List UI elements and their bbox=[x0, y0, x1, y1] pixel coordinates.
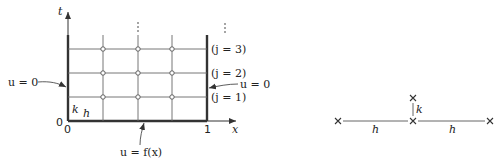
stencil-right-h-label: h bbox=[449, 123, 456, 136]
continuation-dots-center bbox=[137, 22, 139, 32]
stencil-node-right bbox=[487, 118, 493, 124]
step-k-label: k bbox=[72, 103, 79, 116]
stencil-node-left bbox=[335, 118, 341, 124]
step-h-label: h bbox=[83, 107, 90, 120]
stencil-k-label: k bbox=[416, 103, 423, 116]
stencil-node-center bbox=[410, 118, 416, 124]
right-bc-label: u = 0 bbox=[240, 78, 270, 91]
x-end-tick-label: 1 bbox=[204, 123, 211, 136]
stencil-node-top bbox=[410, 95, 416, 101]
initial-condition-arrow bbox=[140, 123, 144, 145]
row-label-j3: (j = 3) bbox=[211, 43, 246, 56]
initial-condition-label: u = f(x) bbox=[120, 146, 162, 159]
stencil bbox=[335, 95, 493, 124]
stencil-nodes bbox=[335, 95, 493, 124]
t-axis-label: t bbox=[58, 5, 63, 18]
left-bc-arrow bbox=[38, 82, 66, 87]
continuation-dots-right bbox=[224, 23, 226, 33]
finite-difference-figure: t x 0 0 1 k h (j = 3) (j = 2) (j = 1) u … bbox=[0, 0, 503, 160]
origin-x-label: 0 bbox=[64, 123, 71, 136]
origin-t-label: 0 bbox=[56, 116, 63, 129]
right-bc-arrow bbox=[209, 84, 238, 88]
stencil-left-h-label: h bbox=[372, 123, 379, 136]
x-axis-label: x bbox=[232, 123, 239, 136]
left-bc-label: u = 0 bbox=[8, 76, 38, 89]
row-label-j1: (j = 1) bbox=[211, 91, 246, 104]
